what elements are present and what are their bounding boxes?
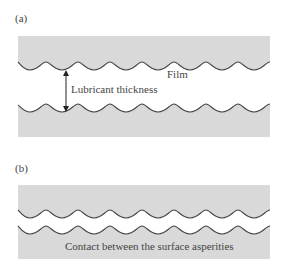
- contact-label: Contact between the surface asperities: [65, 240, 234, 252]
- panel-b-label: (b): [15, 162, 28, 174]
- panel-a-top-surface: [18, 36, 270, 70]
- film-label: Film: [167, 68, 188, 80]
- lubricant-thickness-label: Lubricant thickness: [71, 83, 157, 95]
- panel-a-label: (a): [15, 12, 27, 24]
- lubrication-diagram: [0, 0, 285, 270]
- panel-a-bottom-surface: [18, 104, 270, 137]
